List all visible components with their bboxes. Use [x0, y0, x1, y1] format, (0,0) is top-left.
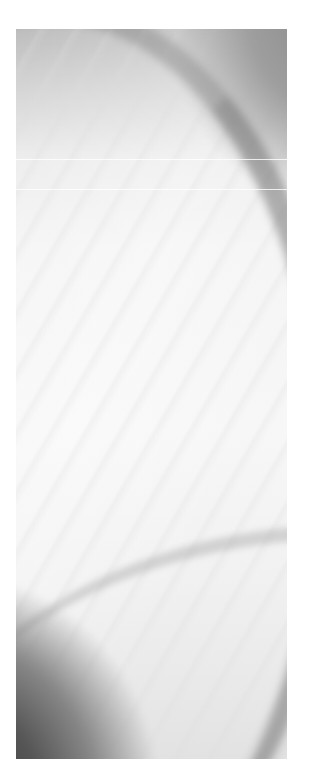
abstract-artwork — [16, 29, 287, 759]
horizontal-seam — [16, 159, 287, 160]
bottom-left-shadow — [16, 579, 156, 759]
horizontal-seam — [16, 189, 287, 190]
